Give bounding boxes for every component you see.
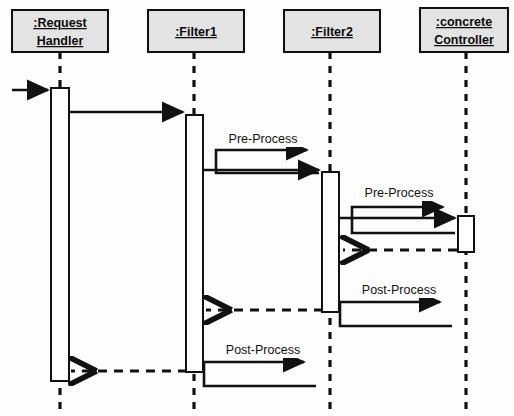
self-message-filter1-pre-process-label: Pre-Process [229,132,298,146]
activation-bar-concrete-controller[interactable] [458,216,474,252]
self-message-filter2-post-process[interactable]: Post-Process [340,280,452,326]
self-message-filter2-pre-process-path [352,207,455,233]
self-message-filter1-post-process-path [204,362,316,386]
uml-sequence-diagram: :Request Handler :Filter1 :Filter2 :conc… [0,0,514,416]
self-message-filter1-post-process-label: Post-Process [226,343,300,357]
activation-bar-request-handler[interactable] [51,88,69,381]
activation-bar-filter2[interactable] [322,172,339,312]
activation-bar-filter1[interactable] [186,115,203,372]
self-message-filter1-pre-process[interactable]: Pre-Process [216,129,319,173]
lifeline-label-request-handler-line2: Handler [37,34,84,48]
lifeline-label-concrete-controller-line2: Controller [434,33,494,47]
lifeline-label-filter1: :Filter1 [175,25,217,39]
self-message-filter1-post-process[interactable]: Post-Process [204,340,316,386]
self-message-filter2-post-process-label: Post-Process [362,283,436,297]
self-message-filter2-pre-process-label: Pre-Process [365,186,434,200]
self-message-filter2-pre-process[interactable]: Pre-Process [352,183,455,233]
lifeline-label-filter2: :Filter2 [311,25,353,39]
lifeline-label-request-handler-line1: :Request [33,16,87,30]
self-message-filter2-post-process-path [340,302,452,326]
lifeline-label-concrete-controller-line1: :concrete [436,15,492,29]
lifeline-concrete-controller[interactable]: :concrete Controller [420,8,508,412]
sequence-diagram-canvas: :Request Handler :Filter1 :Filter2 :conc… [0,0,514,416]
lifeline-request-handler[interactable]: :Request Handler [12,10,108,412]
